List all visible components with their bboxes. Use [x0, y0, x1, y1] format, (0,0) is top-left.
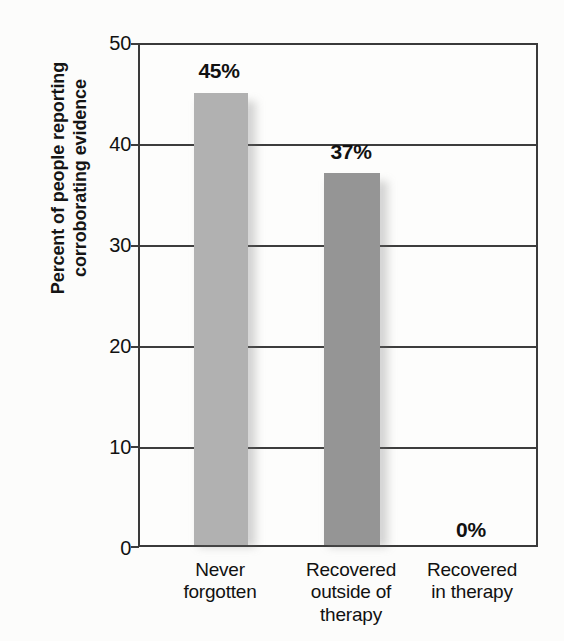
y-tick-label-20: 20: [85, 336, 131, 356]
bar-never-forgotten[interactable]: [194, 93, 248, 545]
x-category-label-recovered-in-therapy: Recovered in therapy: [411, 559, 533, 604]
x-category-label-recovered-in-therapy-line-2: in therapy: [411, 581, 533, 603]
x-category-label-never-forgotten-line-1: Never: [159, 559, 281, 581]
y-axis-title-line-1: Percent of people reporting: [48, 62, 70, 294]
x-category-label-recovered-outside-therapy: Recovered outside of therapy: [289, 559, 413, 626]
x-category-label-recovered-outside-therapy-line-3: therapy: [289, 604, 413, 626]
bar-recovered-outside-therapy[interactable]: [324, 173, 380, 545]
x-category-label-never-forgotten-line-2: forgotten: [159, 581, 281, 603]
x-category-label-recovered-in-therapy-line-1: Recovered: [411, 559, 533, 581]
value-label-recovered-in-therapy: 0%: [414, 519, 528, 540]
y-tick-label-50: 50: [85, 33, 131, 53]
plot-area: [138, 43, 538, 547]
y-tick-label-0: 0: [85, 538, 131, 558]
y-tick-label-40: 40: [85, 134, 131, 154]
value-label-recovered-outside-therapy: 37%: [294, 141, 408, 162]
y-tick-label-30: 30: [85, 235, 131, 255]
bar-chart-figure: Percent of people reporting corroboratin…: [0, 0, 564, 641]
x-category-label-never-forgotten: Never forgotten: [159, 559, 281, 604]
x-category-label-recovered-outside-therapy-line-2: outside of: [289, 581, 413, 603]
y-tick-label-10: 10: [85, 437, 131, 457]
x-category-label-recovered-outside-therapy-line-1: Recovered: [289, 559, 413, 581]
value-label-never-forgotten: 45%: [162, 60, 276, 81]
